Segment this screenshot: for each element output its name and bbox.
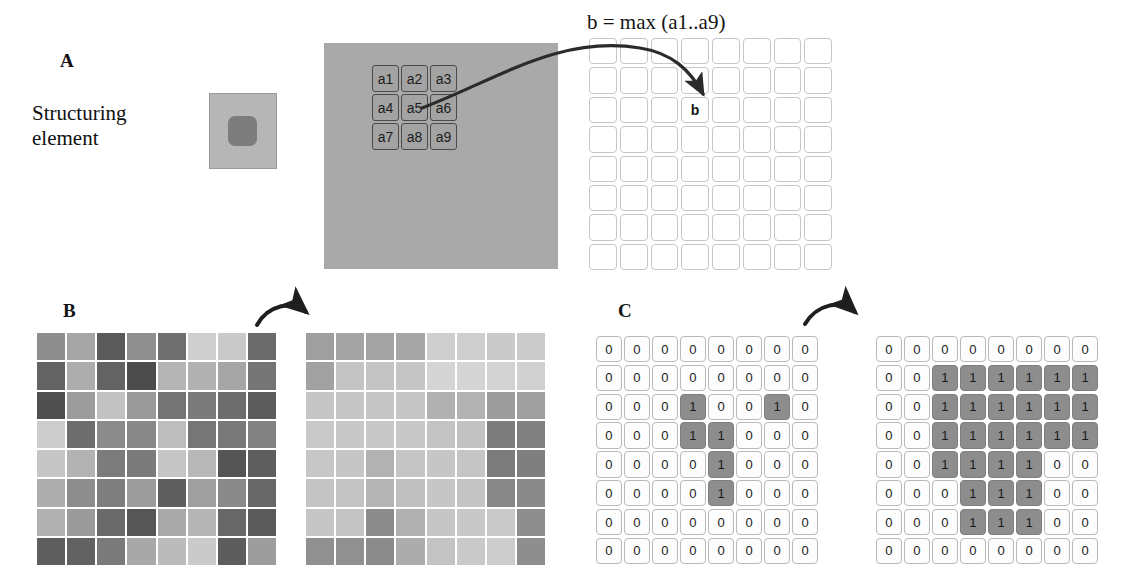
panel-b-input-cell bbox=[188, 362, 216, 389]
panel-c-input-cell: 1 bbox=[708, 422, 734, 448]
panel-c-input-cell: 0 bbox=[708, 394, 734, 420]
panel-c-input-cell: 0 bbox=[736, 538, 762, 564]
panel-b-input-cell bbox=[97, 392, 125, 419]
panel-c-output-cell: 0 bbox=[876, 365, 902, 391]
panel-b-output-cell bbox=[306, 509, 334, 536]
panel-b-input-cell bbox=[218, 362, 246, 389]
panel-c-input-cell: 0 bbox=[736, 422, 762, 448]
panel-c-input-cell: 0 bbox=[764, 365, 790, 391]
panel-c-output-cell: 0 bbox=[932, 538, 958, 564]
panel-c-input-cell: 0 bbox=[596, 394, 622, 420]
panel-b-input-cell bbox=[37, 392, 65, 419]
panel-b-output-cell bbox=[487, 421, 515, 448]
panel-b-output-cell bbox=[306, 479, 334, 506]
panel-b-output-cell bbox=[306, 333, 334, 360]
panel-b-output-cell bbox=[396, 538, 424, 565]
panel-c-output-cell: 0 bbox=[904, 365, 930, 391]
panel-b-input-cell bbox=[97, 538, 125, 565]
panel-c-input-cell: 0 bbox=[764, 451, 790, 477]
panel-c-output-cell: 0 bbox=[904, 394, 930, 420]
panel-b-output-cell bbox=[336, 538, 364, 565]
panel-c-output-cell: 1 bbox=[1044, 422, 1070, 448]
panel-c-output-cell: 0 bbox=[932, 336, 958, 362]
panel-b-input-cell bbox=[188, 450, 216, 477]
panel-b-output-cell bbox=[366, 392, 394, 419]
panel-c-input-cell: 0 bbox=[680, 480, 706, 506]
panel-b-output-cell bbox=[517, 450, 545, 477]
panel-c-input-cell: 0 bbox=[624, 365, 650, 391]
panel-b-output-cell bbox=[427, 450, 455, 477]
panel-b-output-cell bbox=[366, 450, 394, 477]
panel-c-output-cell: 1 bbox=[1072, 422, 1098, 448]
panel-c-output-cell: 0 bbox=[1072, 538, 1098, 564]
panel-c-output-cell: 0 bbox=[876, 451, 902, 477]
panel-b-output-cell bbox=[427, 538, 455, 565]
panel-b-output-cell bbox=[306, 392, 334, 419]
panel-b-input-cell bbox=[158, 421, 186, 448]
panel-c-input-cell: 0 bbox=[596, 451, 622, 477]
panel-b-output-cell bbox=[336, 333, 364, 360]
panel-c-output-grid: 0000000000111111001111110011111100111100… bbox=[876, 336, 1098, 564]
panel-b-output-cell bbox=[517, 538, 545, 565]
panel-b-input-cell bbox=[97, 479, 125, 506]
panel-c-input-cell: 0 bbox=[680, 451, 706, 477]
panel-b-input-cell bbox=[37, 362, 65, 389]
panel-c-output-cell: 0 bbox=[1044, 509, 1070, 535]
panel-b-output-cell bbox=[427, 392, 455, 419]
panel-c-output-cell: 0 bbox=[904, 480, 930, 506]
panel-b-input-cell bbox=[97, 421, 125, 448]
panel-b-input-cell bbox=[127, 450, 155, 477]
panel-c-output-cell: 0 bbox=[904, 336, 930, 362]
panel-b-output-cell bbox=[336, 450, 364, 477]
panel-letter-c: C bbox=[618, 300, 632, 322]
panel-c-output-cell: 0 bbox=[876, 480, 902, 506]
panel-b-output-cell bbox=[306, 538, 334, 565]
panel-c-output-cell: 0 bbox=[876, 336, 902, 362]
panel-c-output-cell: 1 bbox=[1016, 480, 1042, 506]
panel-c-input-cell: 0 bbox=[652, 336, 678, 362]
panel-c-input-cell: 0 bbox=[624, 394, 650, 420]
panel-b-output-cell bbox=[366, 479, 394, 506]
panel-b-output-cell bbox=[457, 450, 485, 477]
panel-b-input-cell bbox=[248, 392, 276, 419]
panel-c-input-cell: 0 bbox=[652, 538, 678, 564]
panel-b-output-cell bbox=[306, 450, 334, 477]
panel-b-output-cell bbox=[487, 538, 515, 565]
panel-b-input-cell bbox=[218, 450, 246, 477]
panel-b-input-cell bbox=[67, 509, 95, 536]
panel-b-input-cell bbox=[218, 392, 246, 419]
panel-c-output-cell: 1 bbox=[932, 394, 958, 420]
panel-c-output-cell: 1 bbox=[1044, 394, 1070, 420]
panel-c-output-cell: 1 bbox=[988, 365, 1014, 391]
panel-b-output-cell bbox=[457, 392, 485, 419]
panel-c-input-cell: 0 bbox=[624, 509, 650, 535]
panel-c-input-cell: 0 bbox=[596, 422, 622, 448]
panel-c-input-cell: 0 bbox=[680, 509, 706, 535]
panel-c-input-grid: 0000000000000000000100100001100000001000… bbox=[596, 336, 818, 564]
panel-b-input-cell bbox=[188, 333, 216, 360]
panel-b-output-cell bbox=[517, 421, 545, 448]
panel-c-output-cell: 1 bbox=[1016, 509, 1042, 535]
panel-c-input-cell: 0 bbox=[736, 365, 762, 391]
panel-b-input-cell bbox=[67, 421, 95, 448]
panel-b-output-cell bbox=[396, 479, 424, 506]
panel-c-input-cell: 0 bbox=[624, 538, 650, 564]
panel-b-output-cell bbox=[396, 509, 424, 536]
panel-b-input-cell bbox=[37, 538, 65, 565]
panel-c-output-cell: 0 bbox=[932, 509, 958, 535]
panel-b-input-cell bbox=[97, 509, 125, 536]
panel-c-input-cell: 1 bbox=[764, 394, 790, 420]
panel-c-output-cell: 1 bbox=[988, 451, 1014, 477]
panel-b-input-cell bbox=[37, 450, 65, 477]
panel-b-input-cell bbox=[127, 333, 155, 360]
panel-c-output-cell: 0 bbox=[904, 509, 930, 535]
panel-c-input-cell: 0 bbox=[596, 509, 622, 535]
panel-c-input-cell: 0 bbox=[652, 480, 678, 506]
panel-c-input-cell: 0 bbox=[792, 394, 818, 420]
panel-b-input-cell bbox=[218, 479, 246, 506]
panel-b-input-cell bbox=[67, 333, 95, 360]
panel-c-input-cell: 0 bbox=[736, 480, 762, 506]
panel-b-output-cell bbox=[457, 479, 485, 506]
panel-c-output-cell: 1 bbox=[1072, 365, 1098, 391]
panel-c-output-cell: 0 bbox=[1016, 336, 1042, 362]
